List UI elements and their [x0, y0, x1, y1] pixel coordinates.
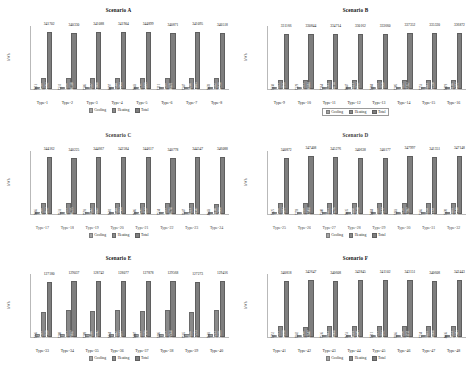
- bar-value-label: 64323: [189, 208, 192, 216]
- legend-label: Heating: [355, 110, 367, 115]
- bar-value-label: 66128: [401, 208, 404, 216]
- legend-item-total[interactable]: Total: [372, 356, 385, 361]
- bar-total: 342443342443: [457, 280, 462, 337]
- bar-group: 725966084347408347408: [293, 151, 318, 214]
- bar-total: 340608340608: [432, 281, 437, 337]
- bar-value-label: 62251: [214, 331, 217, 339]
- bar-group: 736666654341351341351: [417, 151, 442, 214]
- legend-label: Heating: [118, 233, 130, 238]
- total-value-label: 127180: [44, 273, 55, 277]
- total-value-label: 337352: [405, 24, 416, 28]
- y-axis-label: kWh: [244, 302, 248, 309]
- bar-value-label: 340778: [170, 207, 173, 217]
- figure-grid: Scenario AkWh701364366341702341702713166…: [0, 0, 474, 375]
- legend-swatch-cooling-icon: [326, 356, 330, 360]
- bar-group: 706664366344162344162: [31, 151, 56, 214]
- bar-total: 340608340608: [333, 281, 338, 337]
- x-axis-tick: Type-37: [130, 349, 155, 354]
- legend-item-total[interactable]: Total: [372, 233, 385, 238]
- bar-group: 743462462128077128077: [105, 274, 130, 337]
- legend-item-cooling[interactable]: Cooling: [326, 233, 343, 238]
- bar-value-label: 342584: [120, 207, 123, 217]
- bar-total: 336872336872: [457, 33, 462, 89]
- plot-area: kWh7325653783408723408727259660843474083…: [267, 139, 466, 225]
- bar-total: 345276345276: [333, 157, 338, 214]
- legend-item-total[interactable]: Total: [135, 356, 148, 361]
- legend-item-total[interactable]: Total: [135, 108, 148, 113]
- bar-total: 344617344617: [146, 157, 151, 214]
- chart-title: Scenario E: [0, 248, 237, 262]
- bar-value-label: 330844: [308, 82, 311, 92]
- x-axis: Type-33Type-34Type-35Type-36Type-37Type-…: [30, 349, 229, 354]
- legend-item-cooling[interactable]: Cooling: [89, 108, 106, 113]
- bar-value-label: 7633: [59, 209, 62, 215]
- x-axis-tick: Type-25: [267, 226, 292, 231]
- bar-value-label: 55422: [401, 83, 404, 91]
- y-axis-label: kWh: [7, 179, 11, 186]
- bar-group: 720959366128742128742: [81, 274, 106, 337]
- plot-area: kWh7066643663441623441627633646513402253…: [30, 139, 229, 225]
- total-value-label: 340608: [429, 272, 440, 276]
- legend-item-cooling[interactable]: Cooling: [89, 233, 106, 238]
- legend-label: Heating: [118, 108, 130, 113]
- total-value-label: 129037: [69, 272, 80, 276]
- bar-value-label: 7534: [158, 209, 161, 215]
- total-value-label: 331166: [281, 25, 292, 29]
- y-axis-label: kWh: [244, 54, 248, 61]
- legend-item-total[interactable]: Total: [135, 233, 148, 238]
- bar-total: 340518340518: [220, 33, 225, 89]
- bar-group: 720862471129037129037: [56, 274, 81, 337]
- chart-panel-scenario-d: Scenario DkWh732565378340872340872725966…: [237, 125, 474, 248]
- bar-value-label: 344667: [96, 207, 99, 217]
- bar-group: 786663958343151343151: [392, 274, 417, 337]
- bar-total: 129037129037: [71, 281, 76, 337]
- legend-swatch-heating-icon: [112, 233, 116, 237]
- bar-group: 740760485127878127878: [130, 274, 155, 337]
- bar-total: 344667344667: [96, 157, 101, 214]
- bar-group: 718663557341088341088: [81, 26, 106, 89]
- bar-value-label: 344617: [145, 207, 148, 217]
- legend-item-heating[interactable]: Heating: [112, 356, 129, 361]
- legend-item-total[interactable]: Total: [372, 110, 385, 115]
- legend-swatch-cooling-icon: [89, 356, 93, 360]
- chart-title: Scenario D: [237, 125, 474, 139]
- chart-title: Scenario A: [0, 0, 237, 14]
- legend-item-heating[interactable]: Heating: [112, 108, 129, 113]
- plot-canvas: 7066643663441623441627633646513402253402…: [30, 151, 229, 215]
- bar-value-label: 65378: [277, 208, 280, 216]
- bar-value-label: 64593: [352, 331, 355, 339]
- bar-value-label: 340225: [71, 207, 74, 217]
- legend-item-cooling[interactable]: Cooling: [326, 356, 343, 361]
- legend-item-cooling[interactable]: Cooling: [326, 110, 343, 115]
- total-value-label: 347997: [405, 147, 416, 151]
- bar-value-label: 341904: [120, 82, 123, 92]
- bar-value-label: 345276: [333, 207, 336, 217]
- legend-item-heating[interactable]: Heating: [112, 233, 129, 238]
- bar-total: 330162330162: [358, 34, 363, 89]
- bar-value-label: 7111: [158, 84, 161, 90]
- bar-value-label: 7208: [59, 332, 62, 338]
- bar-value-label: 7138: [272, 84, 275, 90]
- chart-panel-scenario-f: Scenario FkWh775263513340818340818784263…: [237, 248, 474, 375]
- bar-value-label: 347997: [407, 207, 410, 217]
- legend-label: Total: [141, 108, 149, 113]
- bar-total: 340818340818: [284, 281, 289, 338]
- total-value-label: 340872: [281, 149, 292, 153]
- bar-group: 725355461335320335320: [417, 26, 442, 89]
- total-value-label: 127878: [143, 272, 154, 276]
- bar-value-label: 64366: [40, 83, 43, 91]
- bar-total: 341702341702: [47, 32, 52, 89]
- legend-label: Cooling: [94, 233, 106, 238]
- bar-value-label: 7711: [371, 332, 374, 338]
- legend-item-heating[interactable]: Heating: [349, 356, 366, 361]
- total-value-label: 344547: [192, 148, 203, 152]
- legend-item-cooling[interactable]: Cooling: [89, 356, 106, 361]
- x-axis-tick: Type-6: [154, 101, 179, 106]
- bar-value-label: 347148: [456, 207, 459, 217]
- legend-item-heating[interactable]: Heating: [349, 110, 366, 115]
- chart-panel-scenario-e: Scenario EkWh723658389127180127180720862…: [0, 248, 237, 375]
- legend-item-heating[interactable]: Heating: [349, 233, 366, 238]
- bar-value-label: 62471: [65, 331, 68, 339]
- bar-group: 720555422337352337352: [392, 26, 417, 89]
- bar-value-label: 63148: [302, 331, 305, 339]
